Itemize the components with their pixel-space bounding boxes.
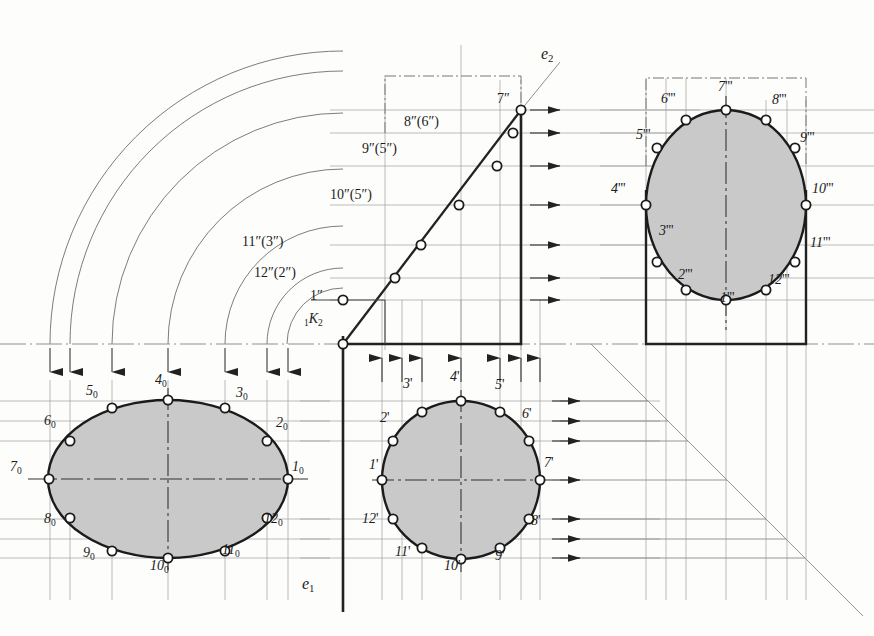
aux-label-1: 10 <box>292 460 304 476</box>
aux-label-5: 50 <box>86 384 98 400</box>
side-label-12: 12''' <box>768 273 790 287</box>
plan-label-12: 12' <box>362 512 379 526</box>
front-label-11-3: 11″(3″) <box>242 235 283 249</box>
axis-e2 <box>521 62 560 110</box>
drawing-canvas: e1 e2 1K2 1″ 12″(2″) 11″(3″) 10″(5″) 9″(… <box>0 0 874 636</box>
side-label-2: 2''' <box>678 268 693 282</box>
side-label-9: 9''' <box>800 131 815 145</box>
aux-label-8: 80 <box>44 512 56 528</box>
aux-label-3: 30 <box>236 386 248 402</box>
aux-label-12: 120 <box>264 512 283 528</box>
front-label-7: 7″ <box>497 92 510 106</box>
plan-label-1: 1' <box>369 458 379 472</box>
plan-label-9: 9' <box>495 549 505 563</box>
front-label-9-5: 9″(5″) <box>362 142 397 156</box>
aux-label-6: 60 <box>44 414 56 430</box>
projection-arrows-right-top <box>530 110 560 300</box>
side-label-1: 1''' <box>720 291 735 305</box>
front-label-1: 1″ <box>310 289 323 303</box>
technical-drawing-svg <box>0 0 874 636</box>
axis-label-e1: e1 <box>302 576 315 594</box>
front-label-12-2: 12″(2″) <box>254 266 296 280</box>
side-label-11: 11''' <box>810 236 831 250</box>
aux-label-4: 40 <box>155 373 167 389</box>
plan-label-11: 11' <box>395 545 411 559</box>
plan-label-7: 7' <box>544 456 554 470</box>
aux-label-9: 90 <box>83 546 95 562</box>
plan-label-10: 10' <box>444 559 461 573</box>
aux-label-10: 100 <box>150 559 169 575</box>
plan-label-8: 8' <box>531 514 541 528</box>
side-label-4: 4''' <box>611 182 626 196</box>
front-view-outline <box>311 110 521 344</box>
projection-arrows-down <box>50 348 288 372</box>
mitre-transfer-lines <box>560 344 863 616</box>
side-label-6: 6''' <box>661 92 676 106</box>
plan-label-6: 6' <box>522 407 532 421</box>
aux-label-11: 110 <box>222 543 240 559</box>
plan-label-4: 4' <box>450 370 460 384</box>
axis-label-e2: e2 <box>541 46 554 64</box>
plan-label-2: 2' <box>380 411 390 425</box>
aux-label-7: 70 <box>10 460 22 476</box>
side-label-7: 7''' <box>718 80 733 94</box>
front-label-10-5: 10″(5″) <box>330 188 372 202</box>
plan-label-3: 3' <box>403 377 413 391</box>
origin-label-k: 1K2 <box>304 312 323 328</box>
side-label-3: 3''' <box>659 224 674 238</box>
aux-label-2: 20 <box>276 416 288 432</box>
side-label-8: 8''' <box>772 93 787 107</box>
projection-arrows-right-bottom <box>552 401 580 558</box>
side-label-5: 5''' <box>636 128 651 142</box>
origin-point-k <box>338 339 347 348</box>
rabatment-arcs <box>50 51 343 344</box>
front-label-8-6: 8″(6″) <box>404 115 439 129</box>
plan-label-5: 5' <box>495 378 505 392</box>
side-label-10: 10''' <box>812 182 834 196</box>
